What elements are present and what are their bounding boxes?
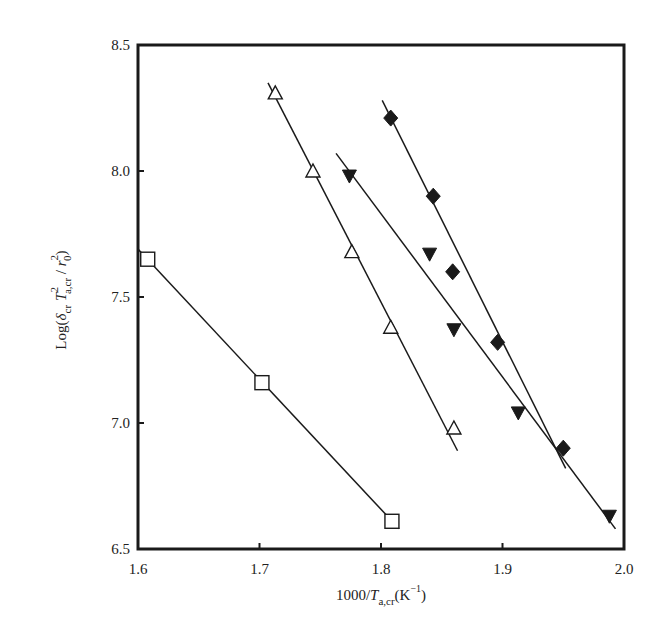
square-marker <box>141 252 155 266</box>
filled-triangle-marker <box>511 407 525 420</box>
x-tick-label: 2.0 <box>615 561 634 577</box>
filled-triangle-marker <box>342 170 356 183</box>
y-axis-label: Log(δcrT2a,cr / r20) <box>48 250 73 349</box>
filled-diamond-fit-line <box>382 100 565 468</box>
diamond-marker <box>446 264 460 280</box>
square-marker <box>255 376 269 390</box>
filled-triangle-marker <box>447 324 461 337</box>
fit-lines <box>138 83 615 529</box>
filled-triangle-marker <box>423 248 437 261</box>
scatter-chart: 1.61.71.81.92.0 6.57.07.58.08.5 1000/Ta,… <box>0 0 667 635</box>
x-tick-label: 1.7 <box>250 561 269 577</box>
y-tick-label: 6.5 <box>111 541 130 557</box>
open-triangle-fit-line <box>268 83 458 451</box>
x-axis-label: 1000/Ta,cr(K−1) <box>336 583 426 607</box>
open-triangle-marker <box>345 245 359 258</box>
square-marker <box>385 514 399 528</box>
diamond-marker <box>491 334 505 350</box>
plot-border <box>138 45 624 549</box>
open-triangle-marker <box>306 164 320 177</box>
data-markers <box>141 86 617 528</box>
x-tick-label: 1.8 <box>372 561 391 577</box>
diamond-marker <box>426 188 440 204</box>
y-tick-label: 8.5 <box>111 37 130 53</box>
open-triangle-marker <box>447 421 461 434</box>
filled-triangle-marker <box>602 510 616 523</box>
filled-triangle-fit-line <box>336 153 615 528</box>
y-tick-label: 8.0 <box>111 163 130 179</box>
diamond-marker <box>384 110 398 126</box>
open-triangle-marker <box>384 320 398 333</box>
y-tick-label: 7.0 <box>111 415 130 431</box>
x-tick-label: 1.9 <box>493 561 512 577</box>
y-tick-label: 7.5 <box>111 289 130 305</box>
plot-frame <box>138 45 624 549</box>
x-tick-label: 1.6 <box>129 561 148 577</box>
